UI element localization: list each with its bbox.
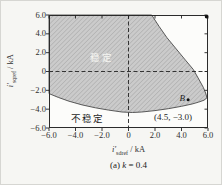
stable-region-label: 稳定	[82, 53, 122, 63]
x-tick-label: 4.0	[168, 130, 196, 140]
unstable-region-label: 不稳定	[57, 114, 117, 124]
point-b-coordinates: (4.5, −3.0)	[138, 113, 208, 123]
y-tick-label: 2.0	[17, 47, 46, 57]
y-axis-unit: / kA	[5, 54, 15, 71]
x-tick-label: 0	[115, 130, 143, 140]
x-tick-label: 6.0	[194, 130, 222, 140]
y-axis-label: i′sqref / kA	[6, 31, 17, 111]
x-axis-label: i′sdref / kA	[49, 145, 208, 156]
y-tick-label: 4.0	[17, 28, 46, 38]
x-axis-unit: / kA	[128, 144, 145, 154]
caption-value: = 0.4	[126, 160, 147, 170]
point-b-label: B	[173, 94, 185, 104]
x-tick-label: 2.0	[141, 130, 169, 140]
corner-marker-dot	[205, 15, 208, 18]
x-tick-label: −4.0	[62, 130, 90, 140]
y-tick-label: 6.0	[17, 10, 46, 20]
figure: i′sqref / kA i′sdref / kA 6.04.02.00−2.0…	[0, 0, 222, 185]
y-tick-label: −4.0	[17, 104, 46, 114]
y-tick-label: −2.0	[17, 85, 46, 95]
caption-index: (a)	[110, 160, 122, 170]
point-b-marker	[187, 98, 190, 101]
y-axis-symbol: i′	[5, 83, 15, 87]
x-axis-subscript: sdref	[116, 150, 128, 156]
y-tick-label: 0	[17, 66, 46, 76]
x-tick-label: −6.0	[35, 130, 63, 140]
figure-caption: (a) k = 0.4	[49, 161, 208, 171]
x-tick-label: −2.0	[88, 130, 116, 140]
